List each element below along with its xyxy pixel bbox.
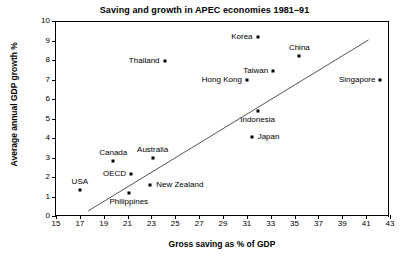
data-point-marker — [298, 54, 301, 57]
x-tick-label: 41 — [362, 220, 371, 228]
x-tick-label: 29 — [219, 220, 228, 228]
y-tick-label: 4 — [46, 134, 50, 142]
x-tick-label: 27 — [195, 220, 204, 228]
y-tick-mark — [52, 80, 56, 81]
data-point-marker — [250, 136, 253, 139]
data-point-marker — [256, 109, 259, 112]
y-tick-label: 10 — [41, 17, 50, 25]
chart-figure: Saving and growth in APEC economies 1981… — [0, 0, 409, 259]
data-point-label: USA — [72, 178, 88, 186]
y-tick-label: 1 — [46, 193, 50, 201]
y-tick-mark — [52, 158, 56, 159]
data-point-marker — [256, 35, 259, 38]
data-point-marker — [151, 156, 154, 159]
data-point-label: Thailand — [129, 57, 160, 65]
y-tick-label: 2 — [46, 173, 50, 181]
chart-title: Saving and growth in APEC economies 1981… — [0, 5, 409, 15]
x-axis-label: Gross saving as % of GDP — [55, 240, 389, 249]
y-tick-label: 3 — [46, 154, 50, 162]
data-point-label: Australia — [137, 146, 168, 154]
y-tick-label: 0 — [46, 212, 50, 220]
data-point-label: Taiwan — [243, 67, 268, 75]
y-tick-label: 9 — [46, 37, 50, 45]
data-point-marker — [130, 173, 133, 176]
data-point-label: Hong Kong — [202, 76, 242, 84]
data-point-marker — [127, 191, 130, 194]
y-tick-label: 6 — [46, 95, 50, 103]
plot-area: 012345678910 151719212325272931333537394… — [55, 21, 389, 216]
x-tick-label: 25 — [171, 220, 180, 228]
data-point-label: Philippines — [109, 198, 148, 206]
x-tick-label: 37 — [314, 220, 323, 228]
x-tick-label: 33 — [266, 220, 275, 228]
y-tick-mark — [52, 177, 56, 178]
x-tick-label: 39 — [338, 220, 347, 228]
x-tick-label: 31 — [242, 220, 251, 228]
data-point-marker — [379, 78, 382, 81]
y-tick-mark — [52, 119, 56, 120]
data-point-label: OECD — [103, 170, 126, 178]
y-tick-mark — [52, 197, 56, 198]
data-point-marker — [163, 59, 166, 62]
data-point-marker — [245, 78, 248, 81]
data-point-label: Canada — [99, 149, 127, 157]
data-point-marker — [272, 69, 275, 72]
data-point-label: New Zealand — [156, 181, 203, 189]
x-tick-label: 17 — [75, 220, 84, 228]
x-tick-label: 19 — [99, 220, 108, 228]
x-tick-label: 21 — [123, 220, 132, 228]
data-point-marker — [78, 189, 81, 192]
x-tick-label: 15 — [52, 220, 61, 228]
data-point-label: Japan — [258, 133, 280, 141]
data-point-label: Indonesia — [240, 116, 275, 124]
x-tick-label: 35 — [290, 220, 299, 228]
y-tick-mark — [52, 41, 56, 42]
y-tick-mark — [52, 60, 56, 61]
x-tick-label: 23 — [147, 220, 156, 228]
y-tick-label: 5 — [46, 115, 50, 123]
data-point-marker — [149, 184, 152, 187]
data-point-label: China — [289, 44, 310, 52]
y-axis-label: Average annual GDP growth % — [10, 4, 19, 204]
trend-line — [56, 21, 390, 216]
y-tick-mark — [52, 21, 56, 22]
data-point-label: Singapore — [339, 76, 375, 84]
data-point-label: Korea — [231, 33, 252, 41]
y-tick-label: 7 — [46, 76, 50, 84]
data-point-marker — [112, 159, 115, 162]
y-tick-label: 8 — [46, 56, 50, 64]
y-tick-mark — [52, 99, 56, 100]
x-tick-label: 43 — [386, 220, 395, 228]
y-tick-mark — [52, 138, 56, 139]
